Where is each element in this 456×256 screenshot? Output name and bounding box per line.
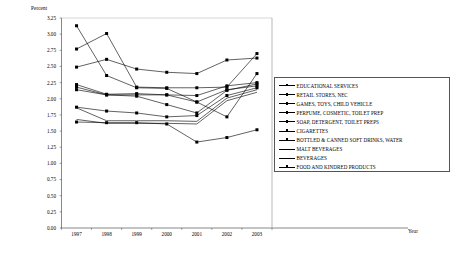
legend-item[interactable]: RETAIL STORES, NEC: [277, 90, 449, 99]
legend-item[interactable]: CIGARETTES: [277, 126, 449, 135]
data-point-marker: [195, 72, 198, 75]
legend-swatch-icon: [279, 82, 295, 89]
legend-swatch-icon: [279, 164, 295, 171]
series-group: [75, 86, 258, 118]
data-point-marker: [195, 111, 198, 114]
data-point-marker: [195, 86, 198, 89]
series-group: [75, 57, 258, 76]
data-point-marker: [195, 94, 198, 97]
data-point-marker: [75, 83, 78, 86]
legend-label: BOTTLED & CANNED SOFT DRINKS, WATER: [297, 137, 403, 143]
legend-label: EDUCATIONAL SERVICES: [297, 83, 359, 89]
legend-swatch-icon: [279, 91, 295, 98]
legend-label: PERFUME, COSMETIC, TOILET PREP: [297, 110, 384, 116]
data-point-marker: [225, 94, 228, 97]
data-point-marker: [75, 121, 78, 124]
data-point-marker: [195, 101, 198, 104]
data-point-marker: [165, 71, 168, 74]
data-point-marker: [75, 24, 78, 27]
data-point-marker: [165, 93, 168, 96]
data-point-marker: [255, 52, 258, 55]
legend-swatch-icon: [279, 100, 295, 107]
data-point-marker: [225, 115, 228, 118]
legend-label: SOAP, DETERGENT, TOILET PREPS: [297, 119, 379, 125]
legend-swatch-icon: [279, 128, 295, 135]
data-point-marker: [75, 88, 78, 91]
data-point-marker: [75, 86, 78, 89]
data-point-marker: [165, 87, 168, 90]
data-point-marker: [105, 110, 108, 113]
legend-swatch-icon: [279, 109, 295, 116]
data-point-marker: [195, 141, 198, 144]
data-point-marker: [135, 121, 138, 124]
legend-label: BEVERAGES: [297, 155, 327, 161]
data-point-marker: [105, 74, 108, 77]
line-chart: Percent Year 0.000.250.500.751.001.251.5…: [0, 0, 456, 256]
data-point-marker: [225, 84, 228, 87]
legend-item[interactable]: GAMES, TOYS, CHILD VEHICLE: [277, 99, 449, 108]
legend-item[interactable]: FOOD AND KINDRED PRODUCTS: [277, 163, 449, 172]
legend-label: MALT BEVERAGES: [297, 146, 343, 152]
legend-swatch-icon: [279, 118, 295, 125]
data-point-marker: [135, 86, 138, 89]
data-point-marker: [195, 114, 198, 117]
legend-item[interactable]: MALT BEVERAGES: [277, 145, 449, 154]
legend-item[interactable]: BEVERAGES: [277, 154, 449, 163]
data-point-marker: [135, 111, 138, 114]
data-point-marker: [255, 57, 258, 60]
chart-legend: EDUCATIONAL SERVICESRETAIL STORES, NECGA…: [274, 77, 450, 172]
data-point-marker: [225, 136, 228, 139]
legend-swatch-icon: [279, 137, 295, 144]
legend-item[interactable]: PERFUME, COSMETIC, TOILET PREP: [277, 108, 449, 117]
data-point-marker: [105, 93, 108, 96]
data-point-marker: [105, 58, 108, 61]
data-point-marker: [255, 86, 258, 89]
data-point-marker: [135, 68, 138, 71]
data-point-marker: [255, 128, 258, 131]
series-line: [77, 34, 257, 88]
data-point-marker: [225, 88, 228, 91]
data-point-marker: [255, 72, 258, 75]
legend-label: RETAIL STORES, NEC: [297, 92, 348, 98]
data-point-marker: [105, 121, 108, 124]
legend-label: FOOD AND KINDRED PRODUCTS: [297, 164, 376, 170]
legend-item[interactable]: EDUCATIONAL SERVICES: [277, 81, 449, 90]
data-point-marker: [75, 66, 78, 69]
legend-label: CIGARETTES: [297, 128, 329, 134]
legend-swatch-icon: [279, 155, 295, 162]
data-point-marker: [105, 32, 108, 35]
chart-root: Percent Year 0.000.250.500.751.001.251.5…: [0, 0, 456, 256]
legend-item[interactable]: BOTTLED & CANNED SOFT DRINKS, WATER: [277, 136, 449, 145]
data-point-marker: [165, 103, 168, 106]
data-point-marker: [165, 122, 168, 125]
legend-label: GAMES, TOYS, CHILD VEHICLE: [297, 101, 373, 107]
data-point-marker: [165, 115, 168, 118]
data-point-marker: [225, 59, 228, 62]
legend-swatch-icon: [279, 146, 295, 153]
legend-item[interactable]: SOAP, DETERGENT, TOILET PREPS: [277, 117, 449, 126]
data-point-marker: [75, 48, 78, 51]
data-point-marker: [135, 93, 138, 96]
series-group: [75, 121, 258, 144]
